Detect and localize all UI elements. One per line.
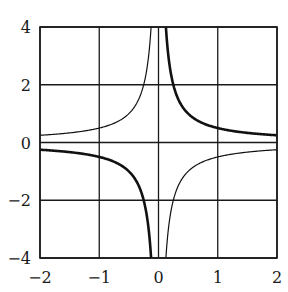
x-tick-label: 2 — [272, 268, 282, 287]
x-tick-label: −2 — [28, 268, 52, 287]
x-axis-tick-labels: −2−1012 — [28, 268, 282, 287]
y-tick-label: 4 — [21, 18, 31, 37]
x-tick-label: 1 — [213, 268, 223, 287]
x-tick-label: −1 — [87, 268, 111, 287]
y-axis-tick-labels: −4−2024 — [7, 18, 31, 268]
y-tick-label: 2 — [21, 76, 31, 95]
y-tick-label: 0 — [21, 134, 31, 153]
hyperbola-plot: −2−1012 −4−2024 — [0, 0, 288, 292]
y-tick-label: −2 — [7, 191, 31, 210]
curve-thin — [40, 27, 151, 135]
y-tick-label: −4 — [7, 249, 31, 268]
grid-lines — [40, 27, 277, 258]
curve-thick — [166, 27, 277, 135]
x-tick-label: 0 — [153, 268, 163, 287]
curve-thin — [166, 150, 277, 258]
curve-thick — [40, 150, 151, 258]
